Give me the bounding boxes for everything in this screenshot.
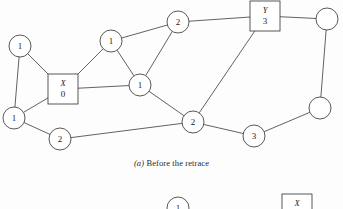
graph-edge — [24, 123, 50, 135]
node-value-label: 2 — [176, 17, 181, 27]
graph-edge — [117, 50, 134, 76]
node-layer: 1X012121Y323 — [3, 1, 338, 150]
graph-node-n5[interactable]: 1 — [100, 30, 122, 52]
graph-edge — [146, 31, 173, 75]
node-value-label: 1 — [138, 80, 143, 90]
graph-node-n8[interactable]: Y3 — [250, 1, 280, 31]
graph-edge — [78, 86, 129, 89]
node-value-label: 0 — [61, 89, 66, 99]
node-value-label: 1 — [18, 41, 23, 51]
graph-node-n11[interactable]: 3 — [243, 125, 265, 147]
node-value-label: 3 — [263, 16, 268, 26]
graph-node-n1[interactable]: 1 — [9, 35, 31, 57]
graph-node-n10[interactable]: 2 — [182, 111, 204, 133]
partial-node-p1[interactable]: 1 — [167, 197, 189, 209]
graph-edge — [23, 98, 48, 113]
graph-edge — [264, 112, 310, 131]
graph-edge — [280, 17, 316, 19]
graph-edge — [28, 54, 48, 74]
node-value-label: 1 — [176, 203, 181, 209]
node-name-label: X — [59, 78, 66, 88]
graph-node-n6[interactable]: 2 — [167, 11, 189, 33]
caption-tag: (a) — [134, 158, 144, 168]
graph-node-n2[interactable]: X0 — [48, 74, 78, 104]
graph-edge — [199, 31, 255, 113]
graph-diagram: 1X012121Y323 1X — [0, 0, 343, 209]
figure-caption: (a) Before the retrace — [0, 158, 343, 168]
graph-edge — [321, 30, 326, 97]
graph-edge — [15, 57, 19, 107]
graph-node-n12[interactable] — [309, 97, 331, 119]
node-value-label: 3 — [252, 131, 257, 141]
node-value-label: 1 — [109, 36, 114, 46]
graph-edge — [189, 17, 250, 21]
partial-figure-layer: 1X — [167, 194, 312, 209]
graph-node-n4[interactable]: 2 — [49, 128, 71, 150]
figure-container: 1X012121Y323 1X (a) Before the retrace — [0, 0, 343, 209]
graph-edge — [149, 91, 184, 115]
node-name-label: X — [293, 198, 300, 208]
node-value-label: 2 — [58, 134, 63, 144]
node-circle[interactable] — [309, 97, 331, 119]
graph-edge — [71, 123, 182, 137]
node-value-label: 2 — [191, 117, 196, 127]
graph-edge — [78, 49, 103, 74]
graph-node-n3[interactable]: 1 — [3, 107, 25, 129]
graph-edge — [204, 124, 244, 133]
node-value-label: 1 — [12, 113, 17, 123]
graph-edge — [122, 25, 168, 38]
graph-node-n9[interactable] — [316, 8, 338, 30]
caption-text: Before the retrace — [144, 158, 209, 168]
graph-node-n7[interactable]: 1 — [129, 74, 151, 96]
node-circle[interactable] — [316, 8, 338, 30]
partial-node-p2[interactable]: X — [282, 194, 312, 209]
